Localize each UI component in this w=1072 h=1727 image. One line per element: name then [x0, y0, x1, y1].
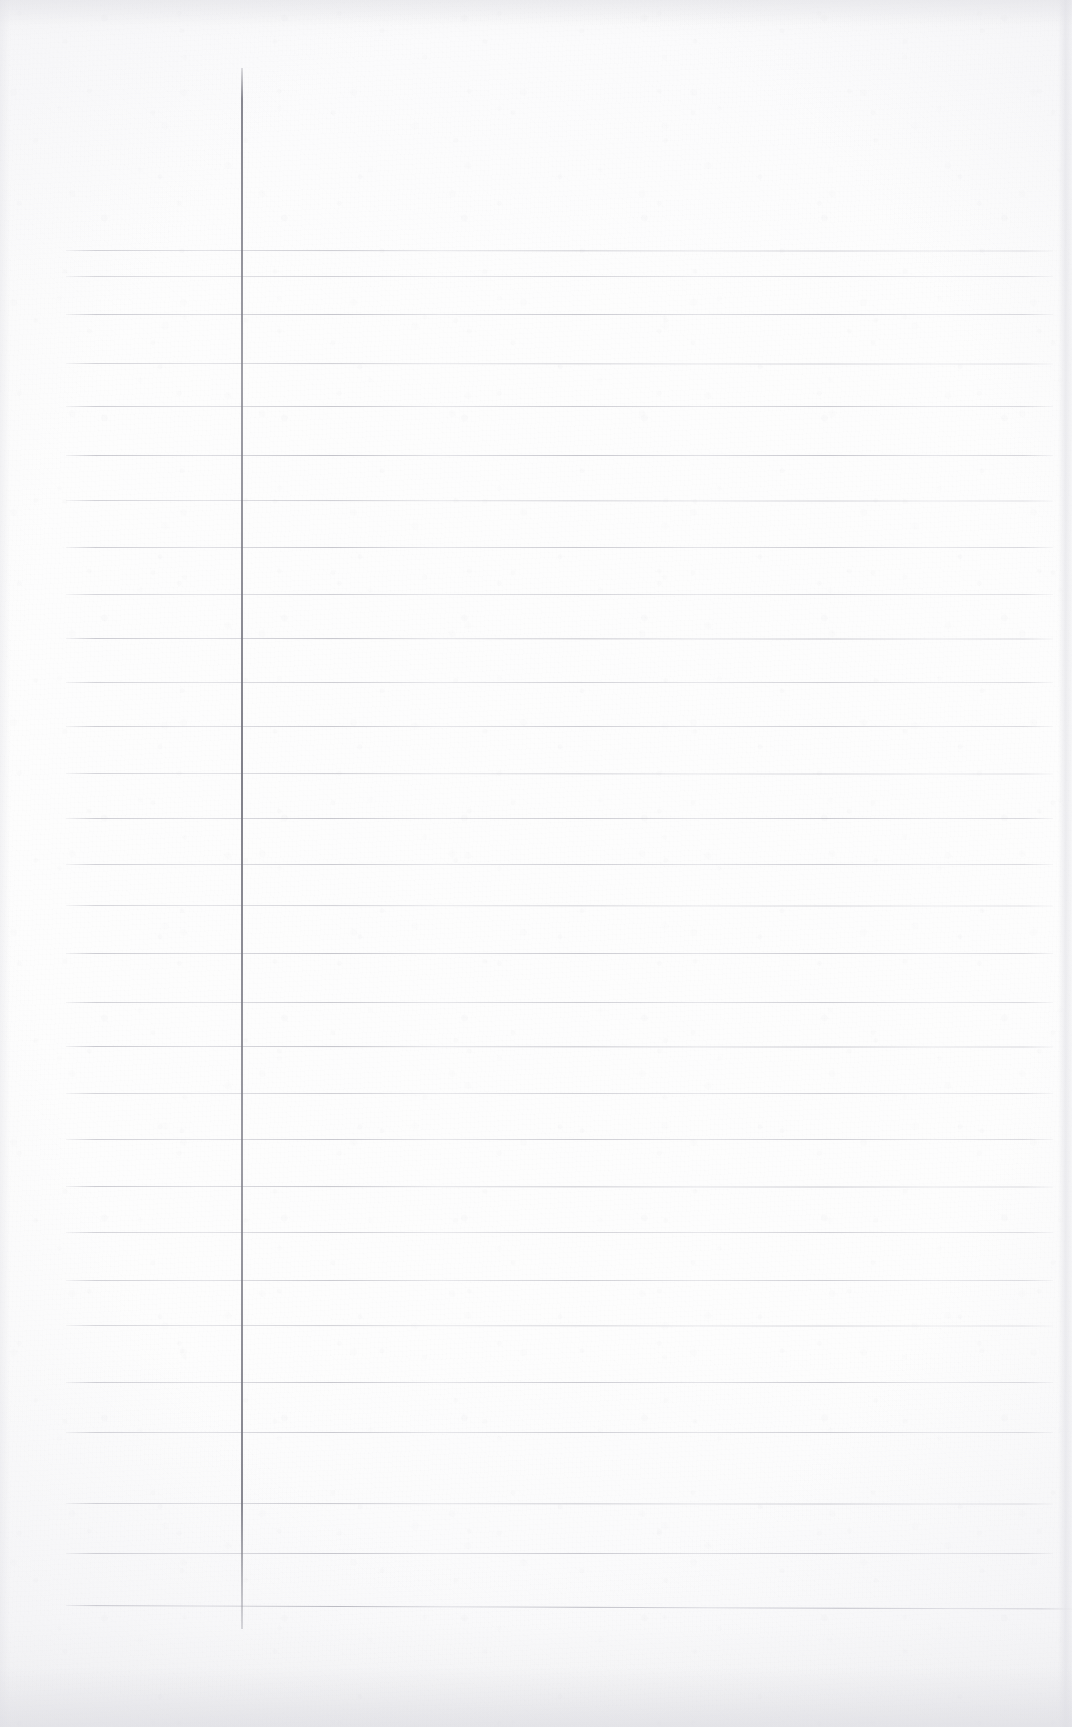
vertical-margin-line: [241, 68, 243, 1629]
paper-background: [0, 0, 1072, 1727]
scanned-page: [0, 0, 1072, 1727]
